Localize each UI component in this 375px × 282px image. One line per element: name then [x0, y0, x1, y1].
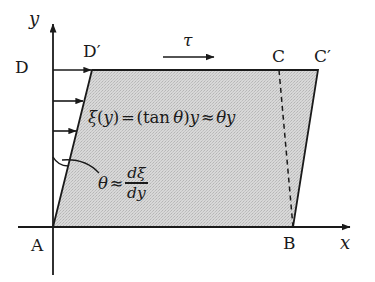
angle-equation: θ ≈ dξ dy: [98, 166, 148, 202]
fraction-denominator: dy: [125, 184, 148, 201]
equation-theta-2: θ: [216, 108, 226, 127]
angle-equation-fraction: dξ dy: [125, 165, 148, 201]
equation-equals: =: [121, 108, 135, 127]
sheared-block-shape: [53, 70, 318, 227]
equation-tan: tan: [143, 108, 170, 127]
equation-approx: ≈: [201, 108, 215, 127]
shear-stress-label: τ: [183, 32, 192, 49]
angle-equation-approx: ≈: [110, 174, 124, 193]
vertex-label-d-prime: D′: [83, 43, 101, 60]
vertex-label-b: B: [283, 235, 296, 252]
vertex-label-c-prime: C′: [314, 48, 331, 65]
vertex-label-c: C: [272, 48, 285, 65]
equation-theta: θ: [173, 108, 183, 127]
displacement-equation: ξ(y) = (tan θ)y ≈ θy: [88, 110, 235, 127]
vertex-label-d: D: [15, 59, 29, 76]
angle-arc: [53, 157, 68, 166]
y-axis-label: y: [29, 10, 39, 28]
equation-y-2: y: [226, 108, 235, 127]
shear-deformation-figure: y x A B C C′ D D′ τ ξ(y) = (tan θ)y ≈ θy…: [0, 0, 375, 282]
x-axis-label: x: [340, 234, 350, 252]
vertex-label-a: A: [31, 237, 43, 254]
equation-xi: ξ: [88, 108, 97, 127]
equation-arg: y: [104, 108, 113, 127]
angle-equation-theta: θ: [98, 174, 108, 193]
equation-y-factor: y: [190, 108, 199, 127]
equation-close-arg: ): [113, 108, 119, 127]
fraction-numerator: dξ: [125, 165, 148, 182]
